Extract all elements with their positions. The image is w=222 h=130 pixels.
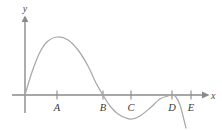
tick-label-c: C [127,102,135,113]
tick-label-a: A [53,102,61,113]
x-axis: x [12,90,216,101]
x-axis-arrow-icon [202,92,210,99]
tick-label-b: B [100,102,107,113]
y-axis: y [22,3,29,113]
graph-svg: x y A B C D E [0,0,222,130]
x-axis-tick-labels: A B C D E [53,102,195,113]
y-axis-label: y [22,3,28,14]
x-axis-label: x [210,90,216,101]
graph-figure: x y A B C D E [0,0,222,130]
function-curve [25,37,186,128]
tick-label-e: E [187,102,195,113]
tick-label-d: D [167,102,176,113]
y-axis-arrow-icon [22,16,29,23]
